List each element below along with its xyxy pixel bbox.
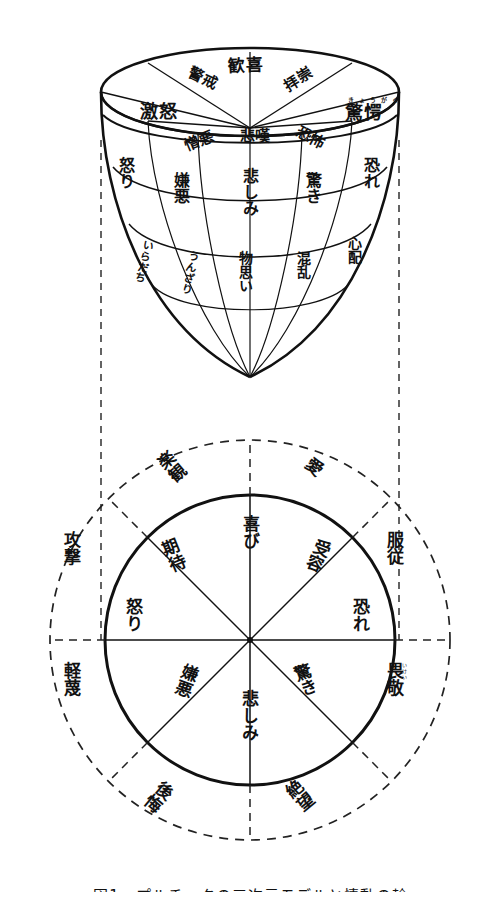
wheel-inner-label-fear: 恐れ [351, 598, 368, 632]
wheel-diagram [50, 440, 450, 840]
cone-label-amazement: 驚愕 [345, 104, 383, 122]
wheel-inner-label-sadness: 悲しみ [240, 690, 257, 741]
cone-label-rage: 激怒 [140, 103, 178, 121]
wheel-outer-label-awe-furigana: いけい [401, 663, 406, 681]
wheel-center-dot [247, 637, 253, 643]
cone-label-anger: 怒り [117, 157, 133, 189]
wheel-inner-label-joy: 喜び [241, 515, 258, 549]
wheel-outer-label-aggressiveness: 攻撃 [62, 531, 79, 565]
cone-label-apprehension: 心配 [347, 236, 361, 264]
cone-label-surprise: 驚き [304, 172, 320, 204]
wheel-outer-label-submission: 服従 [385, 531, 402, 565]
cone-label-grief: 悲嘆 [240, 129, 270, 144]
wheel-inner-label-anger: 怒り [124, 598, 141, 632]
cone-label-pensiveness: 物思い [238, 251, 252, 293]
cone-label-joy: 歓喜 [228, 56, 265, 74]
cone-label-disgust: 嫌悪 [172, 172, 188, 204]
cone-label-fear: 恐れ [362, 157, 378, 189]
wheel-outer-label-contempt: 軽蔑 [62, 662, 79, 696]
wheel-outer-label-awe: 畏敬 [385, 662, 402, 696]
cone-label-sadness: 悲しみ [241, 168, 257, 216]
cone-label-distraction: 混乱 [296, 251, 310, 279]
